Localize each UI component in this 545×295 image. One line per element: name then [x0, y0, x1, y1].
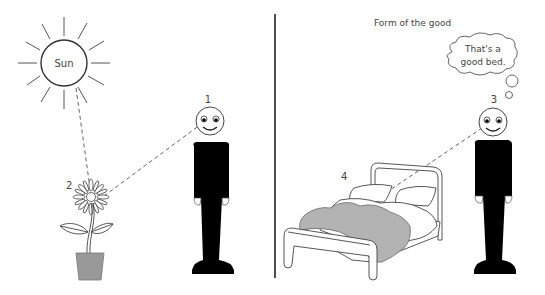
smiley-face-icon — [196, 107, 224, 135]
person-3: 3 — [474, 94, 516, 274]
thought-text-line1: That's a — [464, 44, 501, 54]
flower-center — [87, 193, 96, 202]
thought-bubble: That's a good bed. — [447, 33, 518, 99]
flower-leaf-right — [91, 223, 113, 233]
perception-lines-left — [76, 88, 204, 196]
thought-dot-large — [506, 75, 518, 87]
thought-dot-small — [506, 92, 513, 99]
person-3-hand-left — [475, 196, 483, 203]
sun: Sun — [18, 17, 110, 109]
person-1-body — [192, 142, 234, 274]
bed-number: 4 — [341, 171, 347, 182]
sun-label: Sun — [54, 58, 73, 69]
plato-forms-diagram: Sun 2 — [0, 0, 545, 295]
flower-number: 2 — [66, 180, 72, 191]
flower: 2 — [60, 179, 113, 280]
person-1-hand-right — [222, 198, 229, 205]
person-3-body — [474, 140, 516, 274]
person-1: 1 — [192, 94, 234, 274]
smiley-face-icon — [479, 108, 507, 136]
person-3-hand-right — [505, 196, 512, 203]
thought-text-line2: good bed. — [460, 57, 505, 67]
person-1-hand-left — [194, 198, 201, 205]
person-1-number: 1 — [205, 94, 211, 105]
bed: 4 — [284, 163, 442, 280]
person-3-number: 3 — [491, 94, 497, 105]
flower-leaf-left — [60, 224, 88, 234]
form-of-the-good-title: Form of the good — [374, 18, 451, 28]
flower-pot — [76, 253, 104, 280]
